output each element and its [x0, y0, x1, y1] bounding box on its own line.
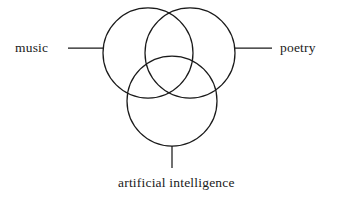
poetry-label: poetry [280, 41, 316, 55]
venn-diagram: music poetry artificial intelligence [0, 0, 338, 198]
music-circle[interactable] [103, 8, 193, 98]
music-label: music [15, 41, 48, 55]
venn-diagram-canvas [0, 0, 338, 198]
artificial-intelligence-label: artificial intelligence [118, 176, 235, 190]
poetry-circle[interactable] [145, 8, 235, 98]
artificial-intelligence-circle[interactable] [127, 56, 217, 146]
